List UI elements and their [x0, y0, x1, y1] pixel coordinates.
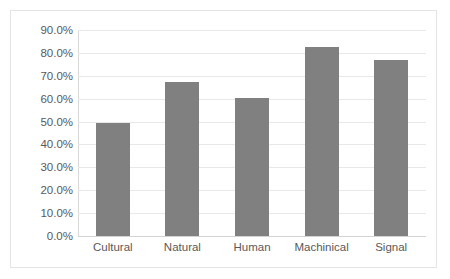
bar[interactable] — [165, 82, 199, 236]
plot-area — [78, 30, 426, 236]
y-axis-tick-label: 80.0% — [15, 47, 73, 59]
bar-slot — [217, 30, 287, 236]
y-axis-tick-label: 40.0% — [15, 138, 73, 150]
y-axis-tick-label: 90.0% — [15, 24, 73, 36]
x-axis-tick-label: Natural — [164, 241, 201, 253]
bar-slot — [148, 30, 218, 236]
bar[interactable] — [96, 123, 130, 236]
bar[interactable] — [235, 98, 269, 236]
x-axis: CulturalNaturalHumanMachinicalSignal — [78, 241, 426, 265]
y-axis-tick-label: 70.0% — [15, 70, 73, 82]
bar-slot — [356, 30, 426, 236]
x-axis-tick-label: Human — [233, 241, 270, 253]
bar[interactable] — [374, 60, 408, 236]
x-axis-tick-label: Signal — [375, 241, 407, 253]
y-axis-tick-label: 10.0% — [15, 207, 73, 219]
gridline — [78, 236, 426, 237]
bar[interactable] — [305, 47, 339, 236]
y-axis-tick-label: 50.0% — [15, 116, 73, 128]
x-axis-tick-label: Machinical — [294, 241, 348, 253]
bar-slot — [287, 30, 357, 236]
y-axis-tick-label: 30.0% — [15, 161, 73, 173]
y-axis: 0.0%10.0%20.0%30.0%40.0%50.0%60.0%70.0%8… — [11, 11, 73, 269]
y-axis-tick-label: 60.0% — [15, 93, 73, 105]
x-axis-tick-label: Cultural — [93, 241, 133, 253]
y-axis-tick-label: 20.0% — [15, 184, 73, 196]
bar-slot — [78, 30, 148, 236]
y-axis-tick-label: 0.0% — [15, 230, 73, 242]
chart-container: 0.0%10.0%20.0%30.0%40.0%50.0%60.0%70.0%8… — [10, 10, 437, 268]
